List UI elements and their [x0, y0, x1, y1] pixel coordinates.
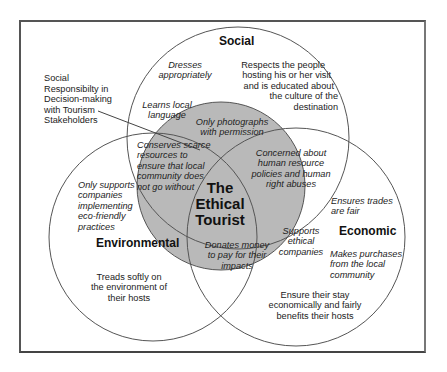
social-heading: Social	[219, 34, 254, 48]
callout-line: Stakeholders	[44, 115, 112, 126]
callout-line: Social	[44, 73, 112, 84]
text-line: Concerned about	[250, 148, 332, 158]
title-line: Ethical	[182, 196, 258, 212]
environmental-heading: Environmental	[96, 236, 179, 250]
text-line: the culture of the	[225, 91, 338, 101]
text-line: right abuses	[250, 179, 332, 189]
concerned-text: Concerned about human resource policies …	[250, 148, 332, 190]
text-line: resources to	[137, 150, 227, 160]
text-line: destination	[225, 102, 338, 112]
callout-social-responsibility: Social Responsibilty in Decision-making …	[44, 73, 112, 126]
text-line: language	[136, 110, 198, 120]
title-line: Tourist	[182, 212, 258, 228]
title-line: The	[182, 180, 258, 196]
callout-line: Decision-making	[44, 94, 112, 105]
text-line: policies and human	[250, 169, 332, 179]
text-line: companies	[78, 190, 153, 200]
text-line: community	[330, 270, 412, 280]
text-line: Only photographs	[192, 117, 272, 127]
text-line: economically and fairly	[260, 300, 370, 310]
econ-trades-text: Ensures trades are fair	[331, 196, 411, 217]
text-line: Conserves scarce	[137, 140, 227, 150]
text-line: human resource	[250, 158, 332, 168]
env-supports-text: Only supports companies implementing eco…	[78, 180, 153, 232]
env-treads-text: Treads softly on the environment of thei…	[84, 272, 174, 303]
ethical-tourist-title: The Ethical Tourist	[182, 180, 258, 228]
social-learns-text: Learns local language	[136, 100, 198, 121]
text-line: are fair	[331, 206, 411, 216]
text-line: practices	[78, 222, 153, 232]
text-line: ensure that local	[137, 161, 227, 171]
text-line: Respects the people	[225, 60, 325, 70]
text-line: eco-friendly	[78, 211, 153, 221]
econ-ensure-stay-text: Ensure their stay economically and fairl…	[260, 290, 370, 321]
callout-line: with Tourism	[44, 105, 112, 116]
text-line: hosting his or her visit	[225, 70, 331, 80]
text-line: Ensures trades	[331, 196, 411, 206]
text-line: Makes purchases	[330, 249, 412, 259]
social-respects-text: Respects the people hosting his or her v…	[225, 60, 338, 112]
text-line: to pay for their	[198, 250, 276, 260]
photographs-text: Only photographs with permission	[192, 117, 272, 138]
text-line: Ensure their stay	[260, 290, 370, 300]
text-line: Supports	[276, 226, 326, 236]
text-line: their hosts	[84, 293, 174, 303]
text-line: the environment of	[84, 282, 174, 292]
social-dresses-text: Dresses appropriately	[150, 60, 220, 81]
text-line: companies	[276, 247, 326, 257]
text-line: implementing	[78, 201, 153, 211]
economic-heading: Economic	[339, 224, 396, 238]
supports-ethical-text: Supports ethical companies	[276, 226, 326, 257]
text-line: Donates money	[198, 240, 276, 250]
econ-purchases-text: Makes purchases from the local community	[330, 249, 412, 280]
text-line: benefits their hosts	[260, 311, 370, 321]
text-line: ethical	[276, 236, 326, 246]
text-line: appropriately	[150, 70, 220, 80]
donates-text: Donates money to pay for their impacts	[198, 240, 276, 271]
callout-line: Responsibilty in	[44, 84, 112, 95]
text-line: with permission	[192, 127, 272, 137]
text-line: Only supports	[78, 180, 153, 190]
text-line: Dresses	[150, 60, 220, 70]
text-line: from the local	[330, 259, 412, 269]
text-line: Learns local	[136, 100, 198, 110]
text-line: impacts	[198, 261, 276, 271]
text-line: Treads softly on	[84, 272, 174, 282]
text-line: and is educated about	[225, 81, 334, 91]
